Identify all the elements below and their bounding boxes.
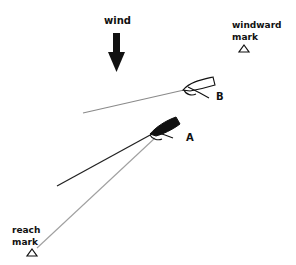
boat-b-hull bbox=[183, 77, 215, 91]
boat-b-wake bbox=[83, 90, 184, 113]
diagram-canvas: wind windward mark B A reach mark bbox=[0, 0, 296, 265]
windward-mark: windward mark bbox=[232, 20, 282, 52]
boat-a-wake bbox=[57, 134, 152, 186]
wind-label: wind bbox=[104, 15, 131, 26]
boat-a: A bbox=[150, 117, 194, 143]
reach-mark-label-line2: mark bbox=[12, 237, 39, 247]
course-line-to-reach-mark bbox=[37, 138, 155, 248]
windward-mark-label-line1: windward bbox=[232, 20, 282, 30]
reach-mark-label-line1: reach bbox=[12, 225, 40, 235]
boat-b: B bbox=[183, 77, 224, 102]
boat-a-label: A bbox=[186, 132, 194, 143]
boat-b-label: B bbox=[216, 91, 224, 102]
wind-indicator: wind bbox=[104, 15, 131, 72]
wind-arrow-icon bbox=[108, 33, 125, 72]
reach-mark: reach mark bbox=[12, 225, 40, 256]
windward-mark-label-line2: mark bbox=[232, 32, 259, 42]
windward-mark-triangle-icon bbox=[239, 45, 249, 52]
boat-a-hull bbox=[150, 117, 180, 136]
reach-mark-triangle-icon bbox=[27, 249, 37, 256]
